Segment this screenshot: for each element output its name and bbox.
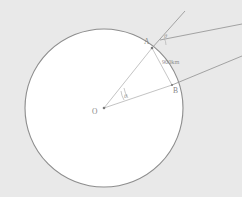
ray-through-b	[172, 56, 242, 85]
label-segment-length: 900km	[162, 58, 179, 65]
point-dot-o	[103, 107, 106, 110]
geometry-diagram: O A B 900km θ θ	[0, 0, 242, 197]
point-dot-a	[151, 47, 154, 50]
label-point-b: B	[173, 86, 178, 95]
label-point-a: A	[144, 37, 150, 46]
label-point-o: O	[92, 107, 98, 116]
ray-parallel-upper	[160, 24, 242, 40]
label-angle-a: θ	[164, 32, 168, 39]
diagram-canvas: O A B 900km θ θ	[0, 0, 242, 197]
ray-through-a-inner	[152, 11, 185, 48]
